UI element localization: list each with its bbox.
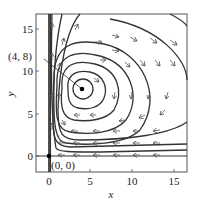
y-tick-label: 5 bbox=[28, 108, 34, 120]
y-axis-title: y bbox=[4, 91, 16, 97]
direction-arrows bbox=[52, 23, 177, 155]
x-tick-label: 15 bbox=[169, 175, 181, 187]
equilibrium-label-center: (4, 8) bbox=[8, 50, 32, 63]
x-axis-title: x bbox=[108, 188, 114, 200]
equilibrium-origin-point bbox=[47, 154, 52, 159]
closed-orbits bbox=[51, 14, 188, 172]
x-tick-label: 10 bbox=[127, 175, 139, 187]
x-tick-label: 5 bbox=[87, 175, 93, 187]
equilibrium-label-origin: (0, 0) bbox=[51, 159, 75, 172]
x-tick-label: 0 bbox=[46, 175, 52, 187]
y-tick-label: 15 bbox=[22, 23, 34, 35]
equilibrium-center-point bbox=[80, 87, 85, 92]
phase-portrait: 0 5 10 15 0 5 10 15 x y (4, 8) (0, 0) bbox=[0, 0, 199, 204]
y-tick-label: 0 bbox=[28, 150, 34, 162]
y-tick-label: 10 bbox=[22, 65, 34, 77]
